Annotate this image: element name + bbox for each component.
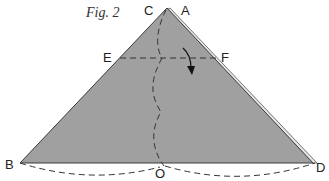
label-a: A (181, 3, 190, 18)
label-c: C (144, 3, 153, 18)
label-d: D (316, 160, 325, 175)
paper-triangle (20, 8, 313, 163)
label-f: F (221, 50, 229, 65)
label-b: B (5, 157, 14, 172)
fold-diagram: Fig. 2 C A E F B D O (0, 0, 329, 181)
arc-bo (20, 163, 160, 175)
arc-od (165, 163, 315, 176)
diagram-figure: Fig. 2 C A E F B D O (0, 0, 329, 181)
label-e: E (103, 50, 112, 65)
figure-caption: Fig. 2 (85, 5, 119, 20)
label-o: O (155, 166, 165, 181)
